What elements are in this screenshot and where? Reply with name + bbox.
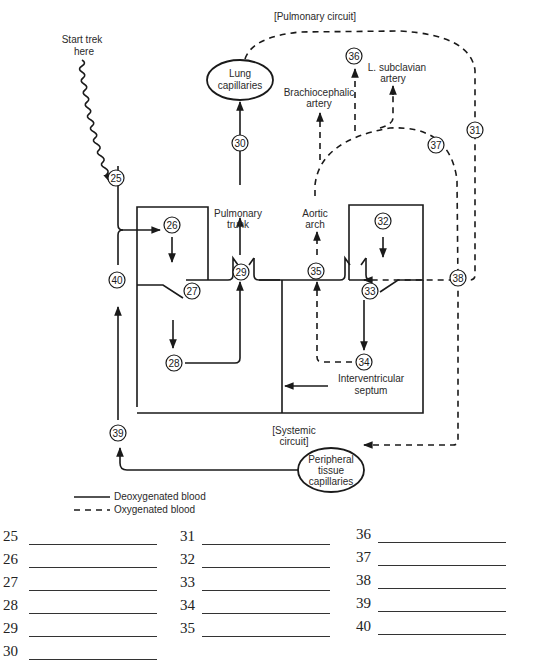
lung-capillaries-label: Lung — [229, 68, 251, 79]
svg-text:25: 25 — [110, 173, 122, 184]
systemic-venous-return — [120, 448, 299, 470]
answer-number: 29 — [3, 620, 18, 637]
answer-number: 31 — [180, 528, 195, 545]
brachiocephalic-label: Brachiocephalic — [284, 87, 355, 98]
answer-blank-36[interactable] — [378, 542, 506, 543]
answer-number: 28 — [3, 597, 18, 614]
answer-number: 32 — [180, 551, 195, 568]
marker-33: 33 — [362, 283, 378, 299]
answer-number: 37 — [356, 549, 371, 566]
answer-number: 25 — [3, 528, 18, 545]
svg-text:29: 29 — [235, 267, 247, 278]
answer-blank-27[interactable] — [29, 590, 157, 591]
answer-number: 39 — [356, 595, 371, 612]
aortic-arch-path — [315, 128, 458, 445]
svg-text:33: 33 — [364, 286, 376, 297]
marker-30: 30 — [232, 135, 248, 151]
pulmonary-trunk-label-2: trunk — [227, 219, 250, 230]
answer-blank-39[interactable] — [378, 611, 506, 612]
legend: Deoxygenated blood Oxygenated blood — [74, 491, 206, 515]
svg-text:38: 38 — [452, 273, 464, 284]
aortic-arch-label: Aortic — [302, 208, 328, 219]
svg-text:40: 40 — [111, 275, 123, 286]
legend-dashed-label: Oxygenated blood — [114, 504, 195, 515]
peripheral-label: Peripheral — [308, 454, 354, 465]
start-trek-label: Start trek — [62, 34, 104, 45]
marker-27: 27 — [184, 283, 200, 299]
svg-text:37: 37 — [430, 140, 442, 151]
svg-text:39: 39 — [112, 428, 124, 439]
brachiocephalic-label-2: artery — [306, 98, 332, 109]
svg-text:30: 30 — [234, 138, 246, 149]
answer-blank-34[interactable] — [202, 613, 330, 614]
systemic-circuit-label-2: circuit] — [280, 436, 309, 447]
marker-39: 39 — [110, 425, 126, 441]
marker-40: 40 — [109, 272, 125, 288]
svg-text:27: 27 — [186, 286, 198, 297]
pulmonary-trunk-label: Pulmonary — [214, 208, 262, 219]
svg-text:34: 34 — [358, 357, 370, 368]
marker-25: 25 — [108, 170, 124, 186]
subclavian-branch — [380, 92, 393, 128]
marker-36: 36 — [346, 48, 362, 64]
svg-text:36: 36 — [348, 51, 360, 62]
answer-number: 40 — [356, 618, 371, 635]
answer-number: 34 — [180, 597, 195, 614]
answer-blank-26[interactable] — [29, 567, 157, 568]
marker-34: 34 — [356, 354, 372, 370]
marker-35: 35 — [308, 263, 324, 279]
septum-label: Interventricular — [338, 373, 405, 384]
svg-text:32: 32 — [377, 216, 389, 227]
marker-37: 37 — [428, 137, 444, 153]
marker-26: 26 — [164, 217, 180, 233]
answer-number: 30 — [3, 643, 18, 660]
svg-text:35: 35 — [310, 266, 322, 277]
subclavian-label: L. subclavian — [368, 62, 426, 73]
svg-text:26: 26 — [166, 220, 178, 231]
lv-to-aortic-valve — [317, 285, 352, 362]
marker-29: 29 — [233, 264, 249, 280]
pulmonary-circuit-label: [Pulmonary circuit] — [274, 11, 356, 22]
circulation-diagram: [Pulmonary circuit] Start trek here Lung… — [0, 0, 551, 520]
answer-blank-25[interactable] — [29, 544, 157, 545]
answer-number: 36 — [356, 526, 371, 543]
answer-blank-35[interactable] — [202, 636, 330, 637]
subclavian-label-2: artery — [380, 73, 406, 84]
answer-blank-31[interactable] — [202, 544, 330, 545]
answer-number: 33 — [180, 574, 195, 591]
answer-number: 27 — [3, 574, 18, 591]
start-squiggle — [80, 60, 111, 182]
septum-label-2: septum — [355, 385, 388, 396]
marker-38: 38 — [450, 270, 466, 286]
peripheral-label-3: capillaries — [309, 476, 353, 487]
marker-28: 28 — [166, 355, 182, 371]
marker-32: 32 — [375, 213, 391, 229]
pulmonary-vein-path — [245, 31, 475, 280]
answer-number: 38 — [356, 572, 371, 589]
inferior-vena-cava — [118, 230, 123, 265]
svg-text:28: 28 — [168, 358, 180, 369]
lung-capillaries-label-2: capillaries — [218, 80, 262, 91]
answer-blank-33[interactable] — [202, 590, 330, 591]
legend-solid-label: Deoxygenated blood — [114, 491, 206, 502]
answer-blank-29[interactable] — [29, 636, 157, 637]
answer-blank-37[interactable] — [378, 565, 506, 566]
answer-number: 26 — [3, 551, 18, 568]
svg-text:31: 31 — [469, 125, 481, 136]
answer-blank-28[interactable] — [29, 613, 157, 614]
answer-blank-32[interactable] — [202, 567, 330, 568]
answer-blank-30[interactable] — [29, 659, 157, 660]
peripheral-label-2: tissue — [318, 465, 345, 476]
start-trek-label-2: here — [74, 46, 94, 57]
answer-number: 35 — [180, 620, 195, 637]
systemic-circuit-label: [Systemic — [272, 425, 315, 436]
marker-31: 31 — [467, 122, 483, 138]
aortic-arch-label-2: arch — [305, 219, 324, 230]
answer-blank-40[interactable] — [378, 634, 506, 635]
answer-blank-38[interactable] — [378, 588, 506, 589]
